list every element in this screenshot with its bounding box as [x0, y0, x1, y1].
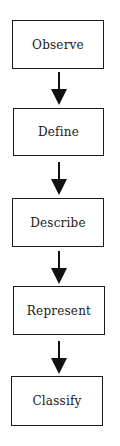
step-describe: Describe	[12, 198, 104, 247]
arrow-down-icon	[51, 162, 67, 196]
arrow-down-icon	[51, 251, 67, 285]
step-label: Observe	[32, 38, 84, 52]
step-label: Classify	[32, 394, 81, 408]
step-label: Represent	[27, 304, 91, 318]
step-label: Describe	[30, 216, 86, 230]
step-define: Define	[13, 108, 104, 156]
arrow-down-icon	[51, 72, 67, 106]
step-label: Define	[38, 125, 79, 139]
step-observe: Observe	[12, 20, 104, 69]
step-represent: Represent	[13, 286, 105, 335]
arrow-down-icon	[51, 341, 67, 375]
step-classify: Classify	[11, 376, 103, 426]
